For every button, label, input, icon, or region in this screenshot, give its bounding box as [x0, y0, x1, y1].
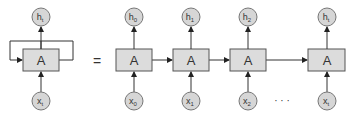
folded-rnn: A ht xt	[10, 8, 73, 110]
ellipsis: · · ·	[274, 95, 290, 106]
equals-sign: =	[93, 53, 101, 69]
cell-0: A h0 x0	[116, 8, 152, 110]
cell-t: A ht xt	[308, 8, 345, 110]
cell-label: A	[37, 53, 46, 68]
cell-1: A h1 x1	[173, 8, 209, 110]
cell-2: A h2 x2	[230, 8, 266, 110]
rnn-diagram: A ht xt = A h0 x0 A	[0, 0, 353, 116]
svg-text:A: A	[187, 53, 196, 68]
svg-text:A: A	[130, 53, 139, 68]
svg-text:A: A	[244, 53, 253, 68]
unrolled-rnn: A h0 x0 A h1 x1 A h2 x	[116, 8, 345, 110]
svg-text:A: A	[323, 53, 332, 68]
